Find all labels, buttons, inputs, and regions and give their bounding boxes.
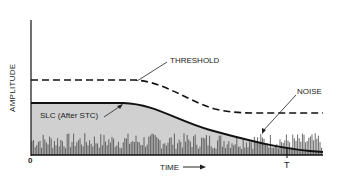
x-axis-label: TIME <box>160 163 179 172</box>
x-origin-label: 0 <box>28 156 32 165</box>
diagram-figure: AMPLITUDE THRESHOLD NOISE SLC (After STC… <box>0 0 343 185</box>
threshold-label: THRESHOLD <box>170 56 219 65</box>
t-marker-label: T <box>284 160 290 170</box>
threshold-leader <box>137 62 167 81</box>
noise-leader-arrowhead <box>262 128 266 134</box>
slc-label: SLC (After STC) <box>40 111 98 120</box>
y-axis-label: AMPLITUDE <box>8 52 17 112</box>
time-arrow-head-icon <box>200 165 206 170</box>
noise-label: NOISE <box>297 87 322 96</box>
